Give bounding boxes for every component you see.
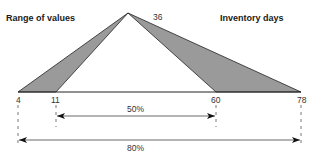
right-tail-wedge (128, 13, 301, 92)
triangular-distribution-diagram: Range of values Inventory days 36 4 11 6… (0, 0, 317, 163)
apex-label: 36 (153, 13, 162, 22)
right-title: Inventory days (220, 14, 284, 23)
point-label-78: 78 (297, 96, 306, 105)
range-label-80: 80% (127, 144, 144, 153)
point-label-4: 4 (16, 96, 21, 105)
left-title: Range of values (6, 14, 75, 23)
point-label-60: 60 (211, 96, 220, 105)
left-tail-wedge (18, 13, 128, 92)
diagram-canvas (0, 0, 317, 163)
range-label-50: 50% (127, 105, 144, 114)
point-label-11: 11 (51, 96, 60, 105)
